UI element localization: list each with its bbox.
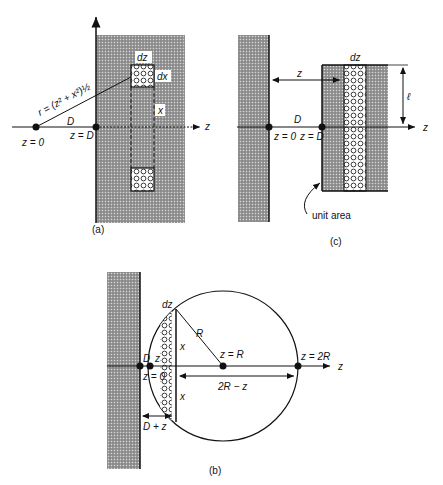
caption-b: (b) (209, 465, 221, 476)
panel-b: dz R x x D z z = 0 z = R z = 2R 2R − z D… (107, 272, 343, 476)
label-z0: z = 0 (21, 137, 44, 148)
label-x-top: x (179, 341, 186, 352)
caption-c: (c) (330, 236, 342, 247)
label-z2R: z = 2R (300, 351, 330, 362)
ring-bottom (131, 168, 154, 191)
label-D: D (67, 116, 74, 127)
label-z0-c: z = 0 (273, 131, 296, 142)
label-D-c: D (294, 114, 301, 125)
dz-strip (344, 65, 366, 191)
label-l: ℓ (406, 91, 411, 102)
ring-top (131, 65, 154, 87)
label-z0-b: z = 0 (142, 371, 165, 382)
label-D-b: D (143, 353, 150, 364)
label-dx: dx (157, 71, 169, 82)
half-space-b (107, 272, 140, 469)
figure-canvas: dz dx x r = (z² + x²)½ D z = 0 z = D z (… (0, 0, 443, 485)
label-x: x (157, 105, 164, 116)
label-2R-z: 2R − z (217, 381, 247, 392)
label-dz: dz (137, 52, 148, 63)
panel-c: dz z ℓ D z = 0 z = D z unit area (c) (237, 35, 428, 247)
label-x-bottom: x (179, 391, 186, 402)
label-dz-c: dz (350, 52, 361, 63)
axis-label-z-b: z (337, 361, 343, 372)
axis-label-z-c: z (422, 122, 428, 133)
label-zD-c: z = D (299, 131, 324, 142)
label-D-plus-z: D + z (143, 421, 167, 432)
label-dz-b: dz (162, 299, 173, 310)
label-zD: z = D (69, 130, 94, 141)
left-half-space (238, 35, 269, 222)
label-z-b: z (154, 353, 160, 364)
label-R: R (196, 328, 203, 339)
panel-a: dz dx x r = (z² + x²)½ D z = 0 z = D z (… (12, 17, 210, 235)
half-space (96, 35, 185, 223)
caption-a: (a) (92, 224, 104, 235)
label-zR: z = R (219, 349, 244, 360)
origin-point (33, 124, 40, 131)
axis-label-z: z (204, 121, 210, 132)
label-unit-area: unit area (312, 210, 351, 221)
label-z-c: z (296, 68, 302, 79)
